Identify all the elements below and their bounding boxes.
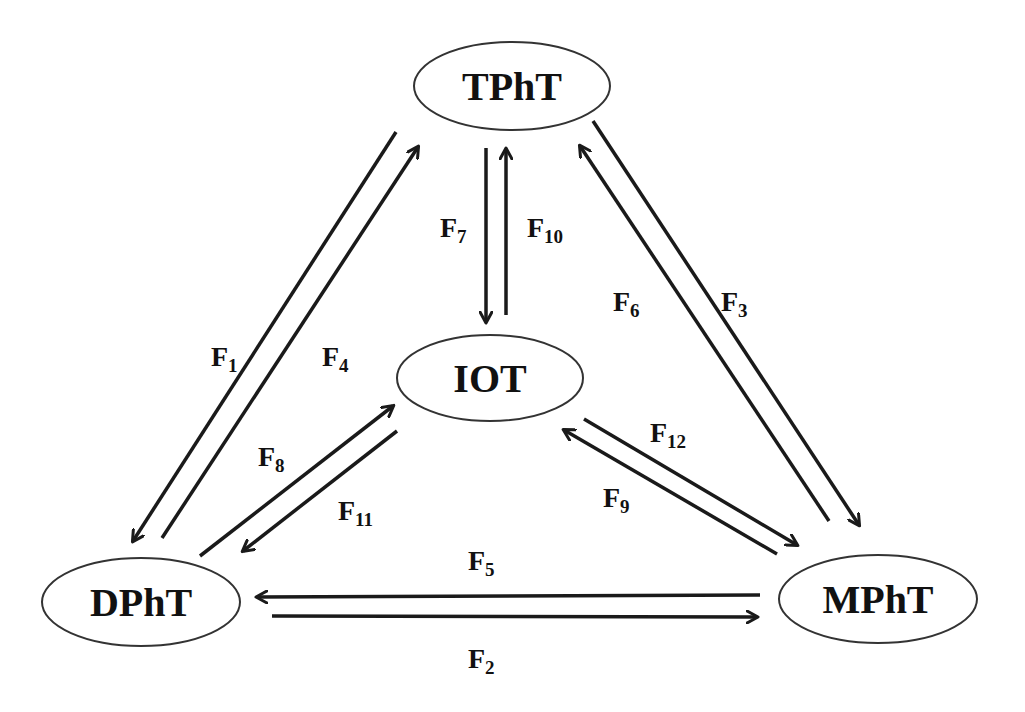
edge-label-f3: F3: [721, 286, 748, 321]
edge-arrow-f1: [133, 132, 396, 541]
edge-label-f4: F4: [322, 341, 349, 376]
edge-label-f5: F5: [468, 545, 495, 580]
edge-label-f2: F2: [468, 643, 495, 678]
node-label: IOT: [453, 356, 527, 401]
edge-label-f1: F1: [211, 341, 238, 376]
edge-arrow-f5: [257, 595, 760, 597]
node-tpht: TPhT: [414, 42, 610, 130]
node-iot: IOT: [397, 335, 583, 421]
edge-label-f8: F8: [258, 441, 285, 476]
edge-label-f7: F7: [440, 212, 467, 247]
edge-labels-layer: F1F4F3F6F7F10F8F11F12F9F5F2: [211, 212, 748, 678]
edge-label-f6: F6: [613, 286, 640, 321]
node-dpht: DPhT: [42, 558, 240, 646]
edge-label-f10: F10: [527, 212, 563, 247]
nodes-layer: TPhTIOTDPhTMPhT: [42, 42, 977, 646]
flow-diagram: TPhTIOTDPhTMPhT F1F4F3F6F7F10F8F11F12F9F…: [0, 0, 1025, 712]
node-mpht: MPhT: [779, 555, 977, 643]
edge-label-f9: F9: [603, 482, 630, 517]
edge-arrow-f6: [580, 146, 829, 521]
node-label: MPhT: [822, 577, 933, 622]
edge-label-f12: F12: [650, 417, 686, 452]
node-label: TPhT: [462, 64, 562, 109]
edge-arrow-f4: [162, 147, 418, 538]
edge-label-f11: F11: [338, 495, 373, 530]
edge-arrow-f3: [593, 121, 859, 525]
node-label: DPhT: [90, 580, 193, 625]
edge-arrow-f8: [200, 406, 393, 556]
edge-arrow-f2: [272, 616, 757, 617]
